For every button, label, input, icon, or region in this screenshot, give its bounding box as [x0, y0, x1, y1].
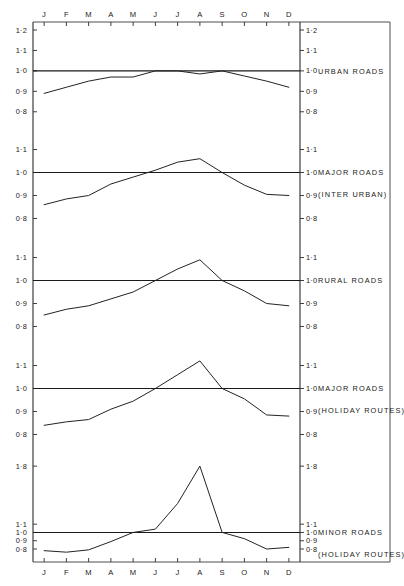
panel-label-major-roads-inter-urban: MAJOR ROADS	[318, 168, 384, 177]
right-ytick-label: 0·8	[306, 430, 317, 439]
left-ytick-label: 0·8	[16, 107, 27, 116]
bottom-month-label: M	[130, 568, 137, 577]
bottom-month-label: S	[219, 568, 224, 577]
bottom-month-label: N	[264, 568, 270, 577]
right-ytick-label: 1·1	[306, 253, 317, 262]
top-month-label: M	[130, 10, 137, 19]
right-ytick-label: 1·1	[306, 361, 317, 370]
panel-label-major-roads-holiday-routes: MAJOR ROADS	[318, 384, 384, 393]
left-ytick-label: 0·9	[16, 407, 27, 416]
top-month-label: A	[108, 10, 114, 19]
series-minor-roads-holiday-routes	[44, 466, 289, 552]
top-month-label: O	[241, 10, 247, 19]
left-ytick-label: 0·9	[16, 299, 27, 308]
bottom-month-label: J	[153, 568, 157, 577]
panel-rural-roads: 1·11·11·01·00·90·90·80·8RURAL ROADS	[16, 253, 384, 331]
bottom-month-label: A	[197, 568, 203, 577]
right-ytick-label: 1·1	[306, 46, 317, 55]
left-ytick-label: 1·0	[16, 384, 27, 393]
left-ytick-label: 1·1	[16, 145, 27, 154]
panel-label-minor-roads-holiday-routes: MINOR ROADS	[318, 528, 383, 537]
chart-canvas: JFMAMJJASONDJFMAMJJASOND1·21·21·11·11·01…	[0, 0, 404, 586]
left-ytick-label: 1·0	[16, 66, 27, 75]
panel-urban-roads: 1·21·21·11·11·01·00·90·90·80·8URBAN ROAD…	[16, 26, 385, 117]
left-ytick-label: 1·1	[16, 46, 27, 55]
bottom-month-label: J	[176, 568, 180, 577]
right-ytick-label: 0·9	[306, 87, 317, 96]
top-month-label: S	[219, 10, 224, 19]
series-urban-roads	[44, 71, 289, 93]
series-rural-roads	[44, 260, 289, 315]
right-ytick-label: 0·8	[306, 214, 317, 223]
panel-label-major-roads-inter-urban: (INTER URBAN)	[318, 190, 387, 199]
left-ytick-label: 1·1	[16, 361, 27, 370]
right-ytick-label: 1·8	[306, 462, 317, 471]
bottom-month-label: A	[108, 568, 114, 577]
right-ytick-label: 0·9	[306, 191, 317, 200]
top-month-label: A	[197, 10, 203, 19]
panel-minor-roads-holiday-routes: 1·81·81·11·11·01·00·90·90·80·8MINOR ROAD…	[16, 462, 404, 560]
top-month-label: J	[153, 10, 157, 19]
right-ytick-label: 0·8	[306, 545, 317, 554]
bottom-month-label: O	[241, 568, 247, 577]
top-month-label: N	[264, 10, 270, 19]
left-ytick-label: 1·0	[16, 276, 27, 285]
bottom-month-label: M	[85, 568, 92, 577]
top-month-label: M	[85, 10, 92, 19]
series-major-roads-holiday-routes	[44, 361, 289, 425]
right-ytick-label: 1·0	[306, 384, 317, 393]
left-ytick-label: 1·2	[16, 26, 27, 35]
right-ytick-label: 0·8	[306, 107, 317, 116]
bottom-month-label: F	[64, 568, 69, 577]
left-ytick-label: 0·8	[16, 214, 27, 223]
right-ytick-label: 1·0	[306, 168, 317, 177]
left-ytick-label: 0·8	[16, 322, 27, 331]
left-ytick-label: 0·9	[16, 191, 27, 200]
seasonal-traffic-index-figure: JFMAMJJASONDJFMAMJJASOND1·21·21·11·11·01…	[0, 0, 404, 586]
right-ytick-label: 0·9	[306, 299, 317, 308]
left-ytick-label: 1·8	[16, 462, 27, 471]
panel-label-major-roads-holiday-routes: (HOLIDAY ROUTES)	[318, 406, 404, 415]
panel-label-urban-roads: URBAN ROADS	[318, 67, 384, 76]
top-month-axis: JFMAMJJASOND	[42, 10, 292, 26]
bottom-month-label: D	[286, 568, 292, 577]
right-ytick-label: 0·9	[306, 407, 317, 416]
left-ytick-label: 0·8	[16, 545, 27, 554]
left-ytick-label: 1·1	[16, 253, 27, 262]
right-ytick-label: 1·0	[306, 66, 317, 75]
panel-major-roads-holiday-routes: 1·11·11·01·00·90·90·80·8MAJOR ROADS(HOLI…	[16, 361, 404, 439]
left-ytick-label: 0·8	[16, 430, 27, 439]
panel-label-rural-roads: RURAL ROADS	[318, 276, 383, 285]
bottom-month-axis: JFMAMJJASOND	[42, 558, 292, 577]
top-month-label: F	[64, 10, 69, 19]
right-ytick-label: 1·0	[306, 276, 317, 285]
left-ytick-label: 0·9	[16, 87, 27, 96]
panel-major-roads-inter-urban: 1·11·11·01·00·90·90·80·8MAJOR ROADS(INTE…	[16, 145, 388, 223]
series-major-roads-inter-urban	[44, 159, 289, 205]
top-month-label: J	[176, 10, 180, 19]
right-ytick-label: 1·2	[306, 26, 317, 35]
bottom-month-label: J	[42, 568, 46, 577]
right-ytick-label: 0·8	[306, 322, 317, 331]
top-month-label: D	[286, 10, 292, 19]
panel-label-minor-roads-holiday-routes: (HOLIDAY ROUTES)	[318, 550, 404, 559]
top-month-label: J	[42, 10, 46, 19]
left-ytick-label: 1·0	[16, 168, 27, 177]
right-ytick-label: 1·1	[306, 145, 317, 154]
